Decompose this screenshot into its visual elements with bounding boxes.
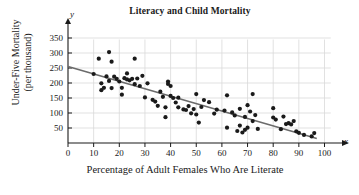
x-tick-label: 70 — [238, 148, 258, 158]
x-tick-label: 10 — [84, 148, 104, 158]
x-tick-label: 80 — [263, 148, 283, 158]
y-tick-label: 250 — [41, 63, 63, 73]
x-tick-label: 50 — [186, 148, 206, 158]
y-tick-label: 300 — [41, 48, 63, 58]
x-tick-label: 60 — [212, 148, 232, 158]
gridlines — [68, 38, 331, 143]
x-axis-symbol: x — [344, 136, 348, 146]
x-tick-label: 100 — [315, 148, 335, 158]
x-tick-label: 40 — [161, 148, 181, 158]
chart-figure: Literacy and Child Mortality Under-Five … — [0, 0, 359, 195]
x-tick-label: 30 — [135, 148, 155, 158]
y-tick-label: 100 — [41, 108, 63, 118]
y-tick-label: 150 — [41, 93, 63, 103]
x-tick-label: 90 — [289, 148, 309, 158]
y-tick-label: 350 — [41, 33, 63, 43]
x-tick-label: 20 — [109, 148, 129, 158]
y-axis-symbol: y — [70, 9, 74, 19]
data-points — [92, 50, 317, 138]
y-tick-label: 200 — [41, 78, 63, 88]
x-tick-label: 0 — [58, 148, 78, 158]
y-tick-label: 50 — [41, 123, 63, 133]
